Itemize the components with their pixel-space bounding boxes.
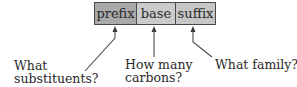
suffix-arrowhead-icon: [191, 26, 196, 32]
prefix-annotation-line2: substituents?: [14, 72, 99, 85]
base-arrowhead-icon: [152, 26, 157, 32]
prefix-arrowhead-icon: [113, 26, 118, 32]
suffix-annotation: What family?: [215, 58, 297, 71]
base-annotation-line2: carbons?: [125, 71, 193, 84]
suffix-annotation-line1: What family?: [215, 58, 297, 71]
suffix-arrow-line: [193, 29, 212, 57]
prefix-annotation: What substituents?: [14, 59, 99, 85]
base-annotation: How many carbons?: [125, 58, 193, 84]
